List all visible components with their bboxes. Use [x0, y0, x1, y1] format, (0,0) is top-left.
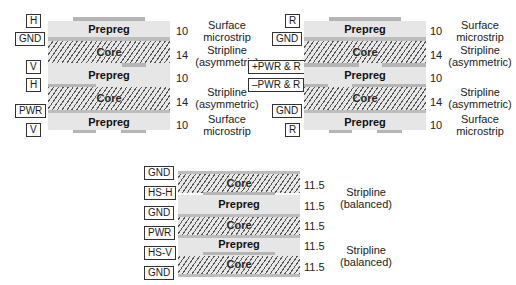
trace-bottom-2 — [377, 130, 402, 133]
trace-v — [122, 63, 146, 67]
desc-line: Surface — [440, 19, 516, 31]
plane-gnd-bottom — [178, 274, 300, 277]
desc-line: (balanced) — [326, 198, 406, 210]
desc-line: (asymmetric) — [187, 98, 267, 110]
trace-bottom-1 — [73, 130, 96, 133]
thickness: 11.5 — [304, 200, 325, 212]
desc-line: Stripline — [440, 44, 516, 56]
description-surface-microstrip-bottom: Surface microstrip — [187, 113, 267, 137]
layer-label: Core — [304, 46, 426, 58]
layer-label: Prepreg — [304, 69, 426, 81]
thickness: 10 — [176, 72, 188, 84]
signal-label-gnd-top: GND — [272, 32, 302, 46]
thickness: 11.5 — [304, 179, 325, 191]
signal-label-r-top: R — [285, 14, 300, 28]
signal-label-hs-v: HS-V — [144, 246, 176, 260]
desc-line: Stripline — [326, 186, 406, 198]
signal-label-v-bottom: V — [26, 123, 41, 137]
desc-line: (asymmetric) — [440, 56, 516, 68]
signal-label-gnd-2: GND — [144, 206, 174, 220]
desc-line: Stripline — [187, 44, 267, 56]
trace-pos-pwr-2 — [382, 63, 426, 67]
signal-label-r-bottom: R — [285, 123, 300, 137]
signal-label-neg-pwr-r: –PWR & R — [248, 78, 304, 92]
trace-bottom-2 — [121, 130, 146, 133]
desc-line: Stripline — [326, 244, 406, 256]
desc-line: Surface — [187, 113, 267, 125]
signal-label-gnd-3: GND — [144, 266, 174, 280]
thickness: 10 — [430, 72, 442, 84]
description-stripline-asym-2: Stripline (asymmetric) — [440, 86, 516, 110]
layer-label: Core — [304, 92, 426, 104]
trace-bottom-1 — [329, 130, 352, 133]
signal-label-gnd-bottom: GND — [272, 104, 302, 118]
signal-label-pos-pwr-r: +PWR & R — [248, 60, 305, 74]
desc-line: microstrip — [187, 125, 267, 137]
desc-line: microstrip — [440, 125, 516, 137]
thickness: 11.5 — [304, 261, 325, 273]
layer-label: Prepreg — [178, 238, 300, 250]
signal-label-v: V — [26, 60, 41, 74]
desc-line: (balanced) — [326, 256, 406, 268]
layer-label: Prepreg — [48, 69, 170, 81]
desc-line: Surface — [440, 113, 516, 125]
signal-label-gnd-1: GND — [144, 166, 174, 180]
layer-label: Prepreg — [48, 116, 170, 128]
description-surface-microstrip-bottom: Surface microstrip — [440, 113, 516, 137]
desc-line: (asymmetric) — [440, 98, 516, 110]
trace-pos-pwr-1 — [304, 63, 359, 67]
layer-label: Prepreg — [48, 23, 170, 35]
desc-line: Surface — [187, 19, 267, 31]
signal-label-h-top: H — [26, 14, 41, 28]
signal-label-hs-h: HS-H — [144, 186, 176, 200]
layer-label: Core — [48, 92, 170, 104]
signal-label-pwr: PWR — [15, 104, 46, 118]
desc-line: microstrip — [187, 31, 267, 43]
layer-label: Prepreg — [304, 116, 426, 128]
signal-label-h: H — [26, 78, 41, 92]
layer-label: Prepreg — [178, 198, 300, 210]
layer-label: Prepreg — [304, 23, 426, 35]
description-stripline-balanced-1: Stripline (balanced) — [326, 186, 406, 210]
thickness: 11.5 — [304, 220, 325, 232]
description-surface-microstrip-top: Surface microstrip — [187, 19, 267, 43]
layer-label: Core — [178, 177, 300, 189]
desc-line: Stripline — [440, 86, 516, 98]
description-stripline-balanced-2: Stripline (balanced) — [326, 244, 406, 268]
signal-label-pwr: PWR — [144, 226, 175, 240]
layer-label: Core — [178, 258, 300, 270]
layer-label: Core — [48, 46, 170, 58]
desc-line: microstrip — [440, 31, 516, 43]
layer-label: Core — [178, 219, 300, 231]
thickness: 11.5 — [304, 240, 325, 252]
description-surface-microstrip-top: Surface microstrip — [440, 19, 516, 43]
signal-label-gnd: GND — [15, 32, 45, 46]
trace-hs-v — [203, 252, 275, 255]
description-stripline-asym-1: Stripline (asymmetric) — [440, 44, 516, 68]
